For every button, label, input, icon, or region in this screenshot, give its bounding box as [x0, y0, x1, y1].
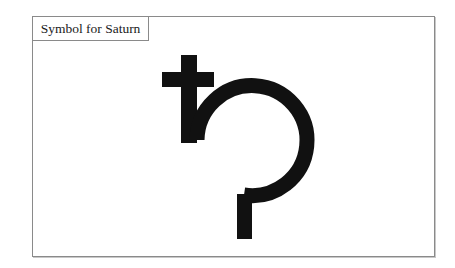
sickle-arc — [197, 86, 307, 196]
sickle-stem — [237, 194, 252, 239]
saturn-symbol-icon — [0, 0, 455, 268]
cross-horizontal-bar — [162, 72, 214, 87]
